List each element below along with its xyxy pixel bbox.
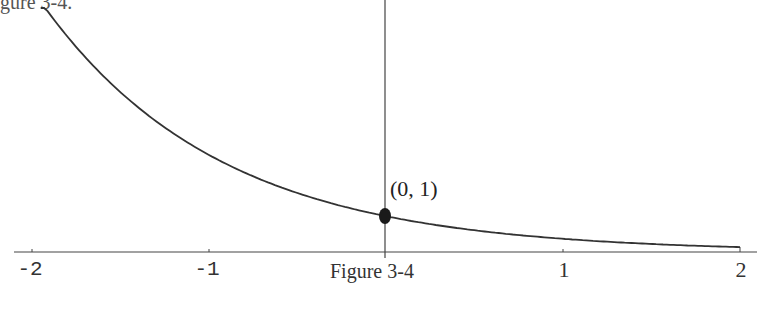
exponential-curve bbox=[41, 8, 740, 247]
figure-caption: Figure 3-4 bbox=[330, 260, 414, 283]
point-label: (0, 1) bbox=[390, 176, 438, 202]
point-marker bbox=[379, 208, 391, 224]
x-tick-label-neg1: -1 bbox=[194, 258, 219, 281]
x-axis-ticks bbox=[32, 247, 740, 252]
x-tick-label-2: 2 bbox=[736, 257, 747, 283]
x-tick-label-neg2: -2 bbox=[17, 258, 42, 281]
x-tick-label-1: 1 bbox=[559, 257, 570, 283]
